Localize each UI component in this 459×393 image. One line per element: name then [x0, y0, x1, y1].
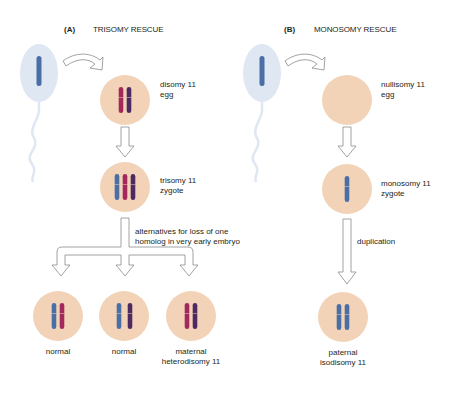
outcome-b-label: paternal isodisomy 11	[298, 348, 388, 368]
egg-b-label-line1: nullisomy 11	[381, 80, 425, 90]
sperm-b	[243, 44, 281, 182]
panel-b-letter: (B)	[284, 25, 295, 34]
curved-arrow-b	[285, 54, 325, 70]
egg-a-label-line1: disomy 11	[160, 80, 196, 90]
duplication-arrow	[338, 219, 356, 284]
outcome-a2-label-line1: normal	[94, 347, 154, 357]
panel-b-title: MONOSOMY RESCUE	[314, 25, 396, 34]
outcome-a3-label: maternal heterodisomy 11	[146, 347, 236, 367]
outcome-a3-label-line1: maternal	[146, 347, 236, 357]
egg-a-label-line2: egg	[160, 90, 196, 100]
zygote-b-label-line1: monosomy 11	[381, 179, 431, 189]
branch-label-line1: alternatives for loss of one	[135, 227, 240, 237]
zygote-b-label: monosomy 11 zygote	[381, 179, 431, 199]
egg-b-label: nullisomy 11 egg	[381, 80, 425, 100]
zygote-a-label: trisomy 11 zygote	[160, 176, 196, 196]
outcome-a2-label: normal	[94, 347, 154, 357]
outcome-a3-label-line2: heterodisomy 11	[146, 357, 236, 367]
egg-b-label-line2: egg	[381, 90, 425, 100]
duplication-label: duplication	[357, 237, 395, 247]
zygote-b-label-line2: zygote	[381, 189, 431, 199]
zygote-a-label-line1: trisomy 11	[160, 176, 196, 186]
curved-arrow-a	[63, 54, 103, 70]
outcome-a1-label: normal	[28, 347, 88, 357]
outcome-b-label-line2: isodisomy 11	[298, 358, 388, 368]
branch-label: alternatives for loss of one homolog in …	[135, 227, 240, 247]
branch-label-line2: homolog in very early embryo	[135, 237, 240, 247]
zygote-a-label-line2: zygote	[160, 186, 196, 196]
panel-a-letter: (A)	[64, 25, 75, 34]
outcome-b-label-line1: paternal	[298, 348, 388, 358]
panel-a-title: TRISOMY RESCUE	[93, 25, 163, 34]
egg-a-label: disomy 11 egg	[160, 80, 196, 100]
outcome-a1-label-line1: normal	[28, 347, 88, 357]
sperm-a	[20, 44, 58, 182]
